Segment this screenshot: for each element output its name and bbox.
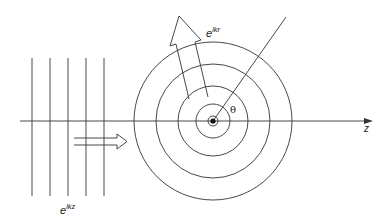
z-axis-label: z <box>364 124 369 134</box>
incident-arrow <box>74 134 127 149</box>
spherical-wave-exponent: ikr <box>212 25 220 34</box>
outgoing-arrow <box>170 16 208 99</box>
spherical-wave-label: eikr <box>206 26 220 39</box>
theta-label: θ <box>230 105 236 115</box>
scattering-diagram <box>0 0 388 222</box>
radial-line <box>213 17 286 121</box>
plane-wave-label: eikz <box>60 203 75 216</box>
plane-wavefronts <box>32 58 104 196</box>
plane-wave-exponent: ikz <box>66 202 75 211</box>
